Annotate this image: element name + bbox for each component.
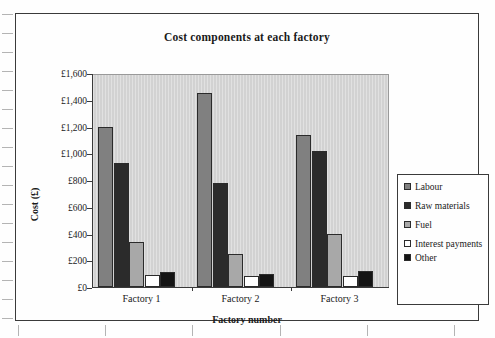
legend-item[interactable]: Other — [404, 253, 488, 264]
ruler-tick — [18, 325, 19, 336]
y-axis: Cost (£) £0£200£400£600£800£1,000£1,200£… — [16, 74, 92, 288]
legend-item-label: Other — [415, 253, 437, 264]
legend-swatch-icon — [404, 183, 411, 190]
page-bottom-ruler-ticks — [10, 324, 490, 338]
chart-legend: LabourRaw materialsFuelInterest payments… — [397, 174, 489, 305]
bar — [259, 274, 274, 287]
legend-item[interactable]: Interest payments — [404, 239, 488, 250]
ruler-tick — [2, 261, 13, 262]
ruler-tick — [2, 242, 13, 243]
ruler-tick — [2, 280, 13, 281]
bar — [197, 93, 212, 287]
y-axis-tick-mark — [87, 288, 92, 289]
x-axis-group-separator — [291, 287, 292, 291]
y-axis-tick-label: £800 — [68, 176, 87, 186]
bar-group — [93, 74, 192, 287]
chart-page: Cost components at each factory Cost (£)… — [0, 0, 495, 338]
ruler-tick — [2, 109, 13, 110]
y-axis-tick-label: £1,400 — [61, 96, 87, 106]
ruler-tick — [2, 204, 13, 205]
chart-frame: Cost components at each factory Cost (£)… — [15, 13, 479, 321]
ruler-tick — [2, 90, 13, 91]
y-axis-tick-label: £600 — [68, 203, 87, 213]
y-axis-title: Cost (£) — [29, 165, 40, 245]
bar — [129, 242, 144, 287]
ruler-tick — [2, 185, 13, 186]
y-axis-tick-label: £200 — [68, 256, 87, 266]
legend-swatch-icon — [404, 254, 411, 261]
y-axis-tick-label: £0 — [78, 283, 88, 293]
ruler-tick — [2, 33, 13, 34]
ruler-tick — [2, 223, 13, 224]
ruler-tick — [2, 52, 13, 53]
bar-group — [192, 74, 291, 287]
chart-title: Cost components at each factory — [16, 31, 478, 43]
legend-item[interactable]: Raw materials — [404, 201, 488, 212]
ruler-tick — [2, 299, 13, 300]
bar — [213, 183, 228, 287]
ruler-tick — [2, 166, 13, 167]
legend-item[interactable]: Fuel — [404, 220, 488, 231]
bar — [327, 234, 342, 288]
legend-swatch-icon — [404, 221, 411, 228]
bar — [228, 254, 243, 287]
ruler-tick — [280, 325, 281, 336]
bar — [296, 135, 311, 287]
y-axis-tick-label: £400 — [68, 230, 87, 240]
legend-item-label: Raw materials — [415, 201, 470, 212]
legend-item-label: Labour — [415, 182, 442, 193]
ruler-tick — [2, 71, 13, 72]
legend-swatch-icon — [404, 202, 411, 209]
ruler-tick — [2, 14, 13, 15]
bar — [244, 276, 259, 287]
ruler-tick — [2, 147, 13, 148]
page-left-ruler-ticks — [0, 10, 14, 330]
y-axis-tick-label: £1,000 — [61, 149, 87, 159]
x-axis-category-label: Factory 3 — [285, 293, 395, 304]
bar — [358, 271, 373, 287]
x-axis-group-separator — [192, 287, 193, 291]
ruler-tick — [2, 318, 13, 319]
y-axis-tick-label: £1,600 — [61, 69, 87, 79]
ruler-tick — [2, 128, 13, 129]
legend-item-label: Interest payments — [415, 239, 482, 250]
ruler-tick — [367, 325, 368, 336]
legend-item-label: Fuel — [415, 220, 432, 231]
bar — [98, 127, 113, 288]
x-axis-category-label: Factory 2 — [186, 293, 296, 304]
y-axis-tick-label: £1,200 — [61, 123, 87, 133]
bar-group — [291, 74, 390, 287]
legend-swatch-icon — [404, 240, 411, 247]
bar — [145, 275, 160, 287]
bar — [114, 163, 129, 287]
plot-area — [92, 74, 389, 288]
bar — [312, 151, 327, 287]
x-axis-category-label: Factory 1 — [87, 293, 197, 304]
bar — [160, 272, 175, 287]
ruler-tick — [192, 325, 193, 336]
x-axis-title: Factory number — [16, 314, 478, 325]
ruler-tick — [105, 325, 106, 336]
ruler-tick — [454, 325, 455, 336]
bar — [343, 276, 358, 287]
legend-item[interactable]: Labour — [404, 182, 488, 193]
